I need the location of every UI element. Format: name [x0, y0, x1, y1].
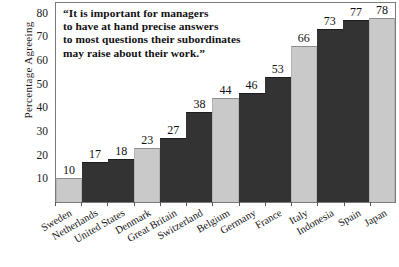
bar-chart: Percentage Agreeing 1020304050607080 101… — [0, 0, 399, 267]
bar-belgium: 44 — [212, 98, 238, 202]
y-tick-label-70: 70 — [14, 31, 48, 43]
quotation-line-4: may raise about their work.” — [63, 47, 313, 60]
bar-value-label: 78 — [376, 4, 388, 16]
plot-area: 10171823273844465366737778 “It is import… — [55, 2, 396, 203]
x-label-cell: France — [265, 205, 291, 267]
x-label-cell: Spain — [344, 205, 370, 267]
bar-value-label: 77 — [350, 6, 362, 18]
y-tick-label-30: 30 — [14, 126, 48, 138]
bar-germany: 46 — [239, 93, 265, 202]
quotation-annotation: “It is important for managersto have at … — [63, 7, 313, 60]
x-tick-mark — [344, 202, 345, 206]
y-tick-label-40: 40 — [14, 102, 48, 114]
bar-switzerland: 38 — [186, 112, 212, 202]
x-tick-mark — [239, 202, 240, 206]
x-label-cell: Japan — [370, 205, 396, 267]
bar-group: 78 — [369, 3, 395, 202]
bar-group: 77 — [343, 3, 369, 202]
bar-indonesia: 73 — [317, 29, 343, 202]
bar-value-label: 53 — [272, 63, 284, 75]
x-tick-mark — [265, 202, 266, 206]
x-tick-mark — [291, 202, 292, 206]
x-tick-mark — [160, 202, 161, 206]
y-tick-label-80: 80 — [14, 8, 48, 20]
bar-value-label: 27 — [167, 124, 179, 136]
bar-value-label: 17 — [89, 148, 101, 160]
bar-great-britain: 27 — [160, 138, 186, 202]
x-label-cell: Belgium — [212, 205, 238, 267]
bar-value-label: 44 — [220, 84, 232, 96]
bar-value-label: 73 — [324, 15, 336, 27]
x-label-cell: Germany — [239, 205, 265, 267]
y-tick-label-20: 20 — [14, 150, 48, 162]
x-label-cell: Indonesia — [317, 205, 343, 267]
bar-sweden: 10 — [56, 178, 82, 202]
x-label-cell: Switzerland — [186, 205, 212, 267]
x-tick-mark — [107, 202, 108, 206]
y-tick-label-10: 10 — [14, 173, 48, 185]
x-label-cell: Italy — [291, 205, 317, 267]
bar-italy: 66 — [291, 46, 317, 202]
y-tick-label-50: 50 — [14, 79, 48, 91]
bar-japan: 78 — [369, 18, 395, 202]
bar-france: 53 — [265, 77, 291, 202]
bar-united-states: 18 — [108, 159, 134, 202]
y-tick-label-60: 60 — [14, 55, 48, 67]
quotation-line-3: to most questions their subordinates — [63, 33, 313, 46]
x-tick-mark — [81, 202, 82, 206]
bar-value-label: 18 — [115, 145, 127, 157]
bar-value-label: 10 — [63, 164, 75, 176]
bar-value-label: 46 — [246, 79, 258, 91]
x-tick-mark — [186, 202, 187, 206]
quotation-line-1: “It is important for managers — [63, 7, 313, 20]
x-tick-mark — [370, 202, 371, 206]
x-tick-mark — [134, 202, 135, 206]
bar-spain: 77 — [343, 20, 369, 202]
x-axis-category-labels: SwedenNetherlandsUnited StatesDenmarkGre… — [55, 205, 396, 267]
quotation-line-2: to have at hand precise answers — [63, 20, 313, 33]
x-tick-mark — [317, 202, 318, 206]
bar-netherlands: 17 — [82, 162, 108, 202]
bar-group: 73 — [317, 3, 343, 202]
bar-value-label: 23 — [141, 134, 153, 146]
bar-denmark: 23 — [134, 148, 160, 202]
x-tick-mark — [55, 202, 56, 206]
x-tick-mark — [212, 202, 213, 206]
bar-value-label: 38 — [193, 98, 205, 110]
